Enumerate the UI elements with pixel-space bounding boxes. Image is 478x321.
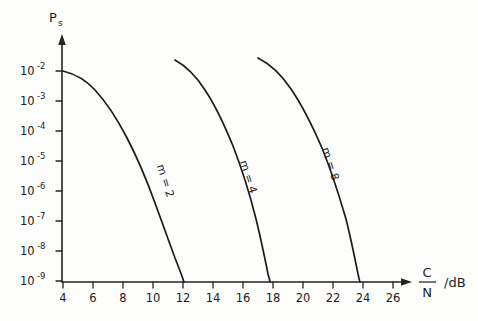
y-axis-title-main: P (49, 10, 57, 25)
x-axis-arrow-icon (401, 278, 412, 286)
y-tick-base-4: 10 (20, 184, 35, 198)
chart-figure: 10 -2 10 -3 10 -4 10 -5 10 -6 10 -7 10 -… (0, 0, 478, 321)
y-axis-title-subscript: s (58, 18, 63, 28)
y-tick-exp-1: -3 (37, 91, 45, 101)
x-axis-ticks (63, 282, 393, 288)
x-tick-label-2: 8 (119, 291, 126, 305)
x-tick-label-11: 26 (386, 291, 401, 305)
y-tick-exp-6: -8 (37, 241, 45, 251)
curve-label-m8: m = 8 (319, 146, 342, 182)
x-tick-label-10: 24 (356, 291, 371, 305)
x-axis-tick-labels: 4 6 8 10 12 14 16 18 20 22 24 26 (59, 291, 400, 305)
y-tick-exp-4: -6 (37, 181, 45, 191)
y-tick-base-7: 10 (20, 274, 35, 288)
x-tick-label-1: 6 (89, 291, 96, 305)
y-tick-exp-3: -5 (37, 151, 45, 161)
y-tick-base-0: 10 (20, 64, 35, 78)
y-tick-exp-5: -7 (37, 211, 45, 221)
x-axis-title-numerator: C (422, 265, 431, 280)
x-axis-title-denominator: N (422, 285, 432, 300)
y-tick-exp-0: -2 (37, 61, 45, 71)
y-tick-exp-7: -9 (37, 271, 45, 281)
y-axis-ticks (56, 71, 62, 281)
x-tick-label-6: 16 (236, 291, 251, 305)
x-tick-label-3: 10 (146, 291, 161, 305)
curve-label-m2: m = 2 (154, 163, 177, 199)
y-axis-tick-labels: 10 -2 10 -3 10 -4 10 -5 10 -6 10 -7 10 -… (20, 61, 45, 288)
y-tick-exp-2: -4 (37, 121, 45, 131)
y-tick-base-2: 10 (20, 124, 35, 138)
x-axis-title: C N /dB (419, 265, 466, 300)
curve-m8 (258, 58, 360, 282)
chart-plot-area: 10 -2 10 -3 10 -4 10 -5 10 -6 10 -7 10 -… (0, 0, 478, 321)
y-tick-base-5: 10 (20, 214, 35, 228)
x-tick-label-4: 12 (176, 291, 191, 305)
y-tick-base-1: 10 (20, 94, 35, 108)
x-tick-label-7: 18 (266, 291, 281, 305)
x-tick-label-9: 22 (326, 291, 341, 305)
curve-label-m4: m = 4 (237, 159, 260, 195)
y-tick-base-6: 10 (20, 244, 35, 258)
y-axis-title: P s (49, 10, 63, 28)
curve-m4 (175, 60, 270, 282)
x-tick-label-8: 20 (296, 291, 311, 305)
y-axis-arrow-icon (58, 34, 66, 45)
x-axis-title-unit: /dB (444, 275, 466, 290)
x-tick-label-5: 14 (206, 291, 221, 305)
x-tick-label-0: 4 (59, 291, 66, 305)
y-tick-base-3: 10 (20, 154, 35, 168)
